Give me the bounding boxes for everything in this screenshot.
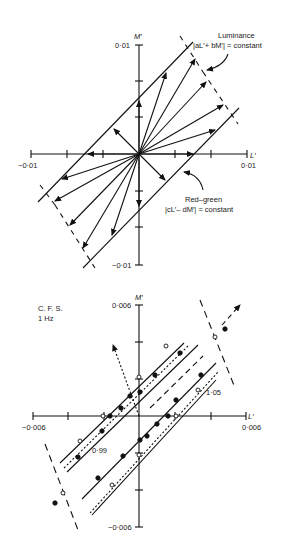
redgreen-label: Red–green <box>185 195 222 204</box>
figure-canvas: M′ 0·01 −0·01 L′ −0·01 0·01 Luminance |a… <box>0 0 295 548</box>
top-y-tick-min: −0·01 <box>112 261 131 270</box>
subject-label: C. F. S. <box>38 304 63 313</box>
top-x-axis-label: L′ <box>250 151 256 160</box>
line-label-0-99: 0·99 <box>92 446 107 455</box>
line-label-1-05: 1·05 <box>206 388 221 397</box>
redgreen-equation: |cL′– dM′| = constant <box>165 205 234 214</box>
bottom-x-axis-label: L′ <box>248 412 254 421</box>
luminance-equation: |aL′+ bM′| = constant <box>193 41 263 50</box>
top-figure <box>31 36 247 268</box>
luminance-label: Luminance <box>218 31 255 40</box>
bottom-y-tick-max: 0·006 <box>112 301 131 310</box>
frequency-label: 1 Hz <box>38 314 54 323</box>
bottom-figure <box>33 300 246 530</box>
top-y-tick-max: 0·01 <box>115 41 130 50</box>
bottom-x-tick-min: −0·006 <box>22 423 46 432</box>
bottom-x-tick-max: 0·006 <box>242 423 261 432</box>
top-y-axis-label: M′ <box>134 32 142 41</box>
bottom-y-axis-label: M′ <box>135 293 143 302</box>
top-x-tick-max: 0·01 <box>241 161 256 170</box>
bottom-y-tick-min: −0·006 <box>108 523 132 532</box>
top-x-tick-min: −0·01 <box>18 161 37 170</box>
